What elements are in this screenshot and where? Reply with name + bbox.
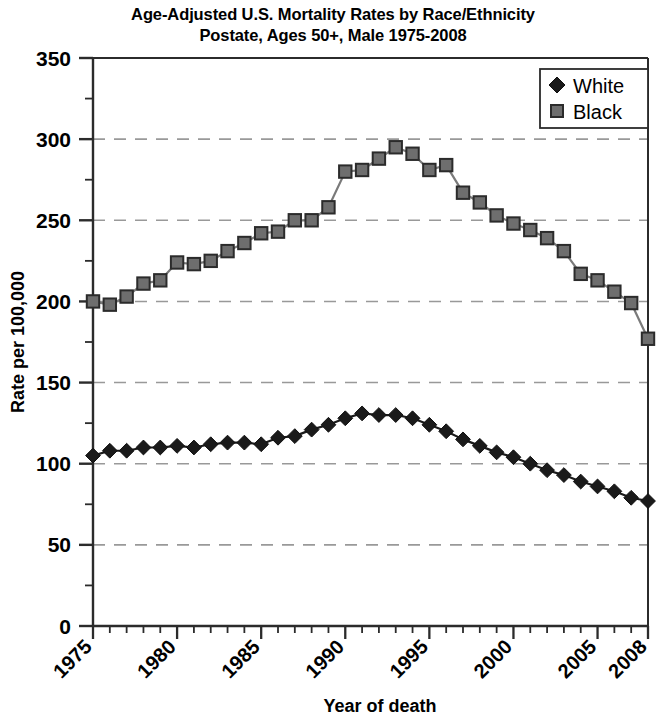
marker-white-1984 xyxy=(237,435,252,450)
y-tick-label-350: 350 xyxy=(36,47,71,70)
marker-white-2001 xyxy=(523,456,538,471)
y-tick-label-50: 50 xyxy=(48,533,71,556)
marker-black-1980 xyxy=(171,256,183,268)
series-black xyxy=(87,141,654,345)
gridlines-group xyxy=(93,139,648,545)
marker-black-2006 xyxy=(608,285,620,297)
marker-black-1999 xyxy=(490,209,502,221)
x-tick-label-1990: 1990 xyxy=(301,635,348,682)
marker-white-2000 xyxy=(506,450,521,465)
marker-white-1999 xyxy=(489,445,504,460)
x-tick-label-1995: 1995 xyxy=(385,635,432,682)
marker-black-2007 xyxy=(625,297,637,309)
legend-label-white: White xyxy=(573,75,624,97)
mortality-rate-chart-figure: Age-Adjusted U.S. Mortality Rates by Rac… xyxy=(0,0,666,723)
y-tick-label-300: 300 xyxy=(36,128,71,151)
y-tick-label-100: 100 xyxy=(36,452,71,475)
marker-white-1993 xyxy=(388,408,403,423)
marker-white-1975 xyxy=(86,448,101,463)
y-axis-tick-labels: 050100150200250300350 xyxy=(36,47,71,638)
marker-black-1990 xyxy=(339,165,351,177)
marker-black-1984 xyxy=(238,237,250,249)
legend-marker-black-icon xyxy=(551,105,563,117)
y-tick-label-150: 150 xyxy=(36,371,71,394)
x-tick-label-1975: 1975 xyxy=(49,635,96,682)
marker-black-1979 xyxy=(154,274,166,286)
x-axis-title: Year of death xyxy=(323,696,436,716)
marker-white-1994 xyxy=(405,411,420,426)
marker-white-1982 xyxy=(203,437,218,452)
series-line-black xyxy=(93,147,648,338)
marker-white-1997 xyxy=(456,432,471,447)
marker-white-1976 xyxy=(102,443,117,458)
marker-black-2005 xyxy=(591,274,603,286)
marker-white-1979 xyxy=(153,440,168,455)
series-white xyxy=(86,406,656,508)
marker-white-1990 xyxy=(338,411,353,426)
marker-black-1993 xyxy=(390,141,402,153)
marker-white-1978 xyxy=(136,440,151,455)
marker-white-2004 xyxy=(573,474,588,489)
marker-white-1986 xyxy=(271,430,286,445)
marker-white-1987 xyxy=(287,429,302,444)
marker-black-1995 xyxy=(423,164,435,176)
series-line-white xyxy=(93,413,648,501)
marker-white-1991 xyxy=(355,406,370,421)
marker-white-2007 xyxy=(624,490,639,505)
marker-black-2002 xyxy=(541,232,553,244)
marker-black-1977 xyxy=(120,290,132,302)
marker-white-2003 xyxy=(557,468,572,483)
marker-black-1989 xyxy=(322,201,334,213)
y-tick-label-250: 250 xyxy=(36,209,71,232)
marker-black-1987 xyxy=(289,214,301,226)
legend-label-black: Black xyxy=(573,101,623,123)
marker-white-1977 xyxy=(119,443,134,458)
marker-black-1996 xyxy=(440,159,452,171)
y-tick-label-0: 0 xyxy=(59,615,71,638)
marker-black-1981 xyxy=(188,258,200,270)
marker-black-1982 xyxy=(205,255,217,267)
marker-white-1996 xyxy=(439,424,454,439)
marker-black-1991 xyxy=(356,164,368,176)
marker-black-1983 xyxy=(221,245,233,257)
marker-white-1988 xyxy=(304,422,319,437)
x-tick-label-2005: 2005 xyxy=(553,635,600,682)
data-series-group xyxy=(86,141,656,508)
marker-white-1985 xyxy=(254,437,269,452)
marker-black-2008 xyxy=(642,333,654,345)
marker-white-1992 xyxy=(372,408,387,423)
marker-black-1986 xyxy=(272,225,284,237)
marker-white-2005 xyxy=(590,479,605,494)
marker-black-2001 xyxy=(524,224,536,236)
marker-black-1978 xyxy=(137,277,149,289)
marker-black-1997 xyxy=(457,186,469,198)
x-axis-tick-labels: 19751980198519901995200020052008 xyxy=(49,635,651,682)
marker-black-2000 xyxy=(507,217,519,229)
x-tick-label-1980: 1980 xyxy=(133,635,180,682)
marker-black-1998 xyxy=(474,196,486,208)
marker-black-1975 xyxy=(87,295,99,307)
chart-legend[interactable]: WhiteBlack xyxy=(540,69,648,128)
marker-white-1983 xyxy=(220,435,235,450)
marker-white-2006 xyxy=(607,484,622,499)
marker-white-1980 xyxy=(170,438,185,453)
marker-black-1976 xyxy=(104,298,116,310)
marker-white-2002 xyxy=(540,463,555,478)
y-tick-label-200: 200 xyxy=(36,290,71,313)
chart-plot-area: 050100150200250300350 197519801985199019… xyxy=(0,0,666,723)
marker-black-1994 xyxy=(406,148,418,160)
x-tick-label-1985: 1985 xyxy=(217,635,264,682)
marker-white-1989 xyxy=(321,417,336,432)
marker-black-1992 xyxy=(373,152,385,164)
marker-white-2008 xyxy=(641,494,656,509)
marker-black-2003 xyxy=(558,245,570,257)
x-axis-ticks xyxy=(93,626,648,639)
marker-white-1995 xyxy=(422,417,437,432)
x-tick-label-2008: 2008 xyxy=(604,635,651,682)
marker-black-1988 xyxy=(305,214,317,226)
marker-black-2004 xyxy=(575,268,587,280)
marker-black-1985 xyxy=(255,227,267,239)
y-axis-title: Rate per 100,000 xyxy=(8,271,28,413)
marker-white-1981 xyxy=(187,440,202,455)
marker-white-1998 xyxy=(472,438,487,453)
